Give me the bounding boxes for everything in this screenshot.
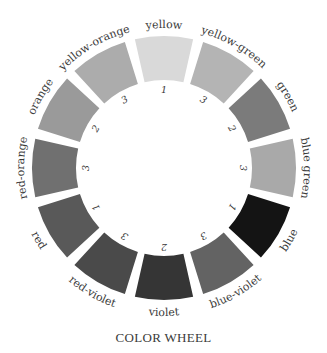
number-green: 2 <box>226 122 239 134</box>
wheel-segments <box>32 36 296 300</box>
number-violet: 2 <box>161 242 168 253</box>
label-blue-green: blue green <box>298 136 314 199</box>
wheel-numbers: 132313231323 <box>80 84 249 253</box>
label-violet: violet <box>147 305 180 319</box>
number-red-violet: 3 <box>119 230 130 243</box>
number-blue: 1 <box>226 202 239 213</box>
number-yellow-green: 3 <box>198 93 209 106</box>
segment-violet <box>135 254 193 300</box>
number-yellow-orange: 3 <box>119 93 130 106</box>
segment-yellow <box>135 36 193 82</box>
number-red: 1 <box>89 202 102 213</box>
label-blue: blue <box>277 227 300 254</box>
number-blue-violet: 3 <box>198 230 209 243</box>
segment-blue-green <box>250 139 296 197</box>
color-wheel: yellowyellow-greengreenblue greenblueblu… <box>0 0 327 353</box>
number-orange: 2 <box>89 123 102 135</box>
label-red-orange: red-orange <box>14 135 30 200</box>
number-yellow: 1 <box>161 84 167 95</box>
number-blue-green: 3 <box>238 165 249 171</box>
number-red-orange: 3 <box>80 165 91 171</box>
diagram-title: COLOR WHEEL <box>0 330 327 346</box>
label-yellow: yellow <box>144 18 183 32</box>
segment-red-orange <box>32 139 78 197</box>
label-red: red <box>29 229 50 252</box>
